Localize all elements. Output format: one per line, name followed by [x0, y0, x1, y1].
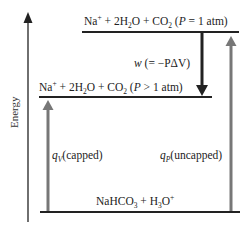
- bottom-level-label: NaHCO3 + H3O+: [96, 195, 174, 207]
- qp-arrow: [226, 36, 237, 211]
- up-arrowhead-icon: [226, 36, 237, 46]
- work-arrow: [196, 33, 208, 96]
- pressure-condition: > 1 atm: [144, 81, 179, 93]
- down-arrowhead-icon: [196, 85, 208, 96]
- energy-axis: [24, 12, 33, 222]
- up-arrowhead-icon: [43, 100, 54, 110]
- top-level-label: Na+ + 2H2O + CO2 (P = 1 atm): [84, 15, 228, 27]
- pressure-var: P: [179, 15, 186, 27]
- energy-axis-label: Energy: [8, 96, 20, 128]
- work-expression: (= −PΔV): [145, 57, 191, 69]
- work-label: w (= −PΔV): [134, 57, 190, 69]
- qv-text: (capped): [62, 149, 102, 161]
- work-var: w: [134, 57, 142, 69]
- qp-label: qP(uncapped): [160, 149, 222, 161]
- qp-text: (uncapped): [170, 149, 222, 161]
- axis-arrowhead-icon: [24, 12, 33, 23]
- middle-level-label: Na+ + 2H2O + CO2 (P > 1 atm): [39, 81, 183, 93]
- qv-label: qV(capped): [52, 149, 103, 161]
- pressure-condition: = 1 atm: [189, 15, 224, 27]
- axis-label-text: Energy: [8, 96, 20, 128]
- pressure-var: P: [134, 81, 141, 93]
